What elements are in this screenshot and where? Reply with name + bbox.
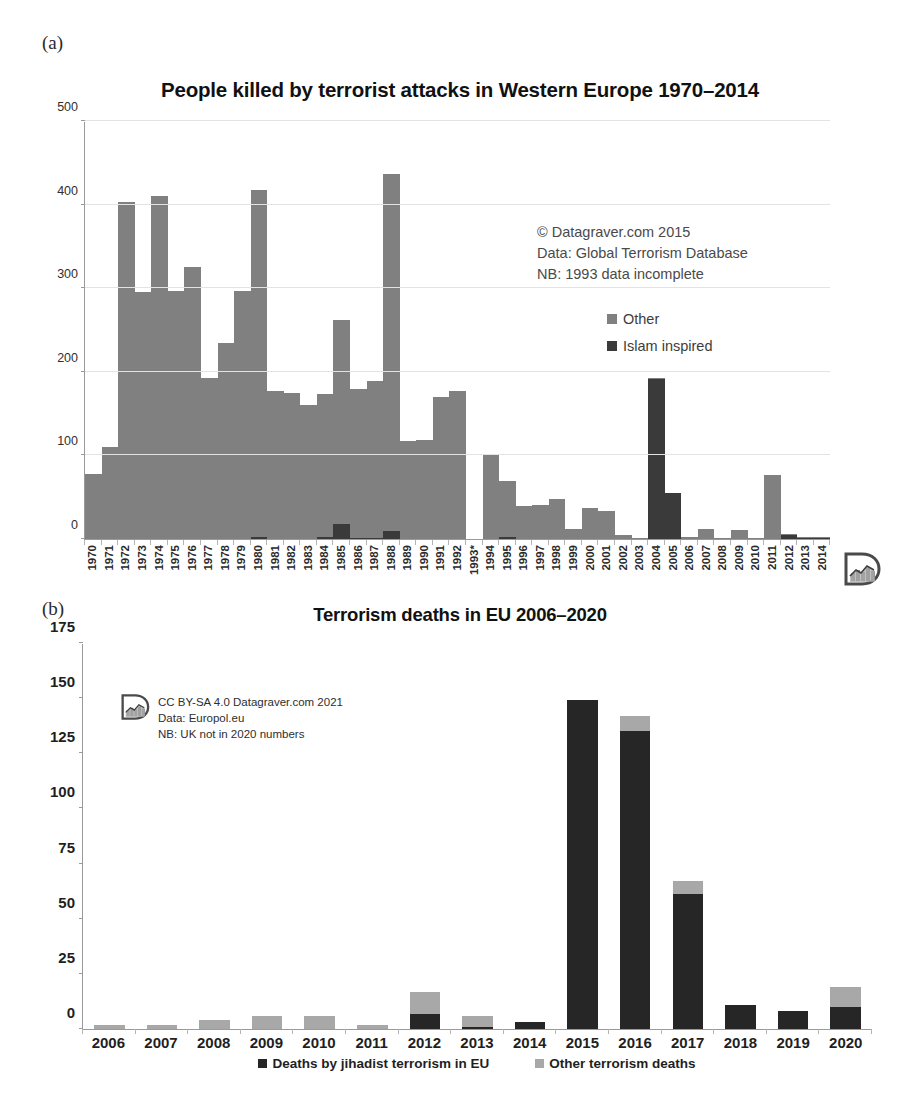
- y-axis-tick: [79, 918, 83, 919]
- bar-column: [102, 122, 119, 539]
- panel-a-annotation: © Datagraver.com 2015 Data: Global Terro…: [537, 222, 748, 285]
- x-axis-tick-label: 1992: [449, 545, 466, 601]
- bar-segment-other: [516, 506, 533, 539]
- y-axis-tick-label: 100: [50, 783, 75, 800]
- x-axis-tick-label: 1995: [498, 545, 515, 601]
- y-axis-tick-label: 400: [57, 184, 78, 198]
- y-axis-tick-label: 300: [57, 267, 78, 281]
- bar-segment-other: [698, 529, 715, 539]
- bar-segment-jihadist: [333, 524, 350, 539]
- bar-column: [433, 122, 450, 539]
- gridline: [85, 287, 830, 288]
- bar-column: [714, 644, 767, 1029]
- bar-segment-other: [731, 530, 748, 539]
- x-axis-tick-label: 2010: [747, 545, 764, 601]
- bar-column: [168, 122, 185, 539]
- x-axis-tick-label: 1978: [217, 545, 234, 601]
- y-axis-tick: [81, 371, 85, 372]
- annotation-line: Data: Europol.eu: [158, 710, 343, 726]
- bar-column: [135, 122, 152, 539]
- panel-a-title: People killed by terrorist attacks in We…: [60, 78, 860, 102]
- bar-column: [797, 122, 814, 539]
- legend-item-islam-inspired: Islam inspired: [607, 338, 712, 354]
- bar-column: [449, 122, 466, 539]
- bar-segment-other: [830, 987, 861, 1007]
- bar-segment-other: [284, 393, 301, 539]
- bar-segment-other: [201, 378, 218, 539]
- bar-column: [267, 122, 284, 539]
- bar-column: [565, 122, 582, 539]
- legend-swatch-other: [535, 1059, 544, 1068]
- x-axis-tick-label: 1973: [134, 545, 151, 601]
- panel-a-letter: (a): [42, 32, 63, 54]
- x-axis-tick-label: 1983: [300, 545, 317, 601]
- y-axis-tick-label: 0: [67, 1004, 75, 1021]
- legend-swatch-other: [607, 314, 617, 324]
- legend-item-jihadist: Deaths by jihadist terrorism in EU: [258, 1056, 489, 1071]
- y-axis-tick: [79, 973, 83, 974]
- bar-segment-jihadist: [499, 537, 516, 540]
- bar-segment-jihadist: [673, 894, 704, 1029]
- y-axis-tick-label: 100: [57, 434, 78, 448]
- x-axis-tick-label: 2019: [767, 1034, 820, 1051]
- bar: [199, 1020, 230, 1029]
- bar-segment-other: [333, 320, 350, 524]
- x-axis-tick-label: 1970: [84, 545, 101, 601]
- bar-segment-other: [598, 511, 615, 539]
- panel-b-xlabels: 2006200720082009201020112012201320142015…: [82, 1034, 872, 1051]
- bar-segment-jihadist: [620, 731, 651, 1029]
- x-axis-tick-label: 1971: [101, 545, 118, 601]
- legend-item-other: Other: [607, 311, 712, 327]
- bar-segment-jihadist: [814, 538, 831, 539]
- x-axis-tick-label: 2014: [503, 1034, 556, 1051]
- gridline: [85, 204, 830, 205]
- x-axis-tick-label: 1974: [150, 545, 167, 601]
- y-axis-tick: [79, 863, 83, 864]
- x-axis-tick-label: 1985: [333, 545, 350, 601]
- x-axis-tick-label: 1989: [399, 545, 416, 601]
- x-axis-tick-label: 1981: [266, 545, 283, 601]
- x-axis-tick-label: 2020: [819, 1034, 872, 1051]
- x-axis-tick-label: 2002: [615, 545, 632, 601]
- y-axis-tick: [79, 807, 83, 808]
- bar-column: [85, 122, 102, 539]
- bar-segment-jihadist: [797, 538, 814, 539]
- x-axis-tick-label: 2013: [451, 1034, 504, 1051]
- bar-segment-other: [304, 1016, 335, 1029]
- annotation-line: NB: UK not in 2020 numbers: [158, 726, 343, 742]
- bar: [778, 1011, 809, 1029]
- bar-segment-jihadist: [367, 538, 384, 539]
- legend-label: Deaths by jihadist terrorism in EU: [272, 1056, 489, 1071]
- x-axis-tick-label: 2007: [135, 1034, 188, 1051]
- bar-column: [609, 644, 662, 1029]
- bar-segment-jihadist: [778, 1011, 809, 1029]
- bar-column: [814, 122, 831, 539]
- bar-column: [819, 644, 872, 1029]
- x-axis-tick-label: 2010: [293, 1034, 346, 1051]
- x-axis-tick-label: 1997: [532, 545, 549, 601]
- x-axis-tick-label: 1990: [416, 545, 433, 601]
- y-axis-tick: [79, 697, 83, 698]
- x-axis-tick-label: 2012: [780, 545, 797, 601]
- bar-column: [767, 644, 820, 1029]
- y-axis-tick-label: 0: [71, 518, 78, 532]
- legend-item-other: Other terrorism deaths: [535, 1056, 695, 1071]
- bar: [567, 700, 598, 1029]
- bar: [725, 1005, 756, 1029]
- bar-segment-other: [462, 1016, 493, 1027]
- bar-column: [218, 122, 235, 539]
- x-axis-tick-label: 2001: [598, 545, 615, 601]
- bar: [620, 716, 651, 1029]
- bar-segment-other: [367, 381, 384, 538]
- bar-segment-jihadist: [251, 537, 268, 539]
- legend-swatch-jihadist: [258, 1059, 267, 1068]
- y-axis-tick-label: 50: [58, 893, 75, 910]
- y-axis-tick: [81, 120, 85, 121]
- x-axis-tick-label: 2018: [714, 1034, 767, 1051]
- bar-segment-other: [681, 537, 698, 539]
- x-axis-tick-label: 2008: [187, 1034, 240, 1051]
- bar-segment-other: [714, 538, 731, 539]
- bar-segment-jihadist: [781, 535, 798, 539]
- bar-segment-other: [764, 475, 781, 539]
- bar-column: [556, 644, 609, 1029]
